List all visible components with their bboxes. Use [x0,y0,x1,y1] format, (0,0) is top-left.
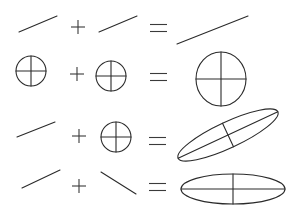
line-segment-icon [177,16,248,44]
row-1 [19,16,248,44]
ellipse-with-cross-icon [181,174,285,204]
plus-icon [72,129,86,143]
line-segment-icon [19,16,57,32]
equals-icon [149,138,166,145]
plus-icon [70,67,84,81]
row-2 [16,52,246,106]
diagram-canvas [0,0,295,212]
circle-with-cross-icon [196,52,246,106]
row-3 [17,100,283,170]
circle-with-cross-icon [16,56,46,86]
equals-icon [149,184,166,191]
diagram-svg [0,0,295,212]
ellipse-with-cross-icon [173,100,284,170]
line-segment-icon [17,122,55,137]
line-segment-icon [101,172,136,194]
row-4 [22,170,285,204]
circle-with-cross-icon [101,122,131,152]
plus-icon [72,179,86,193]
line-segment-icon [99,16,137,32]
circle-with-cross-icon [96,61,126,91]
equals-icon [150,74,167,81]
plus-icon [71,20,85,34]
line-segment-icon [22,170,60,188]
equals-icon [150,25,167,32]
